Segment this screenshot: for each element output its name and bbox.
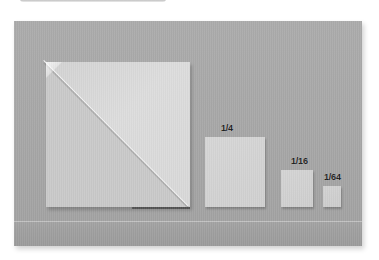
label-sixtyfourth: 1/64	[324, 173, 341, 182]
label-quarter: 1/4	[221, 124, 233, 133]
table-surface	[14, 222, 362, 246]
photograph: 1/4 1/16 1/64	[14, 21, 362, 246]
paper-square-sixtyfourth	[323, 186, 341, 207]
paper-square-quarter	[205, 137, 265, 207]
label-sixteenth: 1/16	[291, 157, 308, 166]
paper-square-sixteenth	[281, 170, 313, 207]
paper-cast-shadow	[132, 207, 190, 209]
cropped-top-bar	[20, 0, 166, 2]
paper-square-full	[46, 62, 190, 207]
